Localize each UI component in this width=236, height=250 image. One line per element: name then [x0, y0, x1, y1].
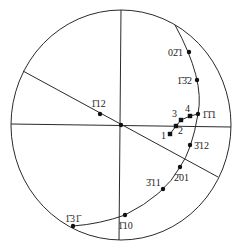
pole-label-1-12: 1̄12	[91, 98, 106, 109]
pole-dot-center	[119, 123, 123, 127]
pole-dot-1-12	[98, 112, 102, 116]
pole-dot--1-32	[195, 78, 199, 82]
pole-label--201: 2̄01	[174, 172, 189, 183]
pole-dot--311	[161, 187, 165, 191]
pole-dot--110	[123, 213, 127, 217]
pole-dot--201	[178, 165, 182, 169]
pole-label--1-32: 1̄3̄2	[177, 75, 192, 86]
pole-label--110: 1̄10	[118, 220, 133, 231]
path-square-4	[188, 114, 192, 118]
pole-dot--13-1	[71, 224, 75, 228]
pole-markers: 1̄1202̄11̄3̄21̄1̄13̄122̄013̄111̄101̄31̄	[65, 47, 216, 231]
pole-label-0-21: 02̄1	[168, 47, 183, 58]
path-square-3	[179, 118, 183, 122]
stereographic-projection: 1̄1202̄11̄3̄21̄1̄13̄122̄013̄111̄101̄31̄ …	[0, 0, 236, 250]
pole-dot--312	[188, 143, 192, 147]
pole-label--312: 3̄12	[194, 140, 209, 151]
pole-dot-0-21	[187, 50, 191, 54]
path-label-3: 3	[172, 108, 177, 119]
pole-label--311: 3̄11	[146, 177, 161, 188]
path-label-4: 4	[185, 103, 190, 114]
pole-label--1-11: 1̄1̄1	[202, 109, 216, 120]
pole-dot--1-11	[196, 112, 200, 116]
pole-label--13-1: 1̄31̄	[65, 213, 82, 224]
path-label-1: 1	[161, 130, 166, 141]
path-label-2: 2	[178, 125, 183, 136]
path-square-1	[168, 132, 172, 136]
path-point-markers: 1234	[161, 103, 192, 141]
